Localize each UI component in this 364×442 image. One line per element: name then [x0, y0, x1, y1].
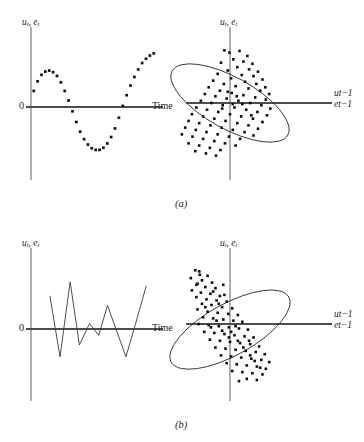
scatter-point — [216, 73, 219, 76]
scatter-point — [254, 351, 257, 354]
scatter-point — [236, 122, 239, 125]
scatter-point — [187, 142, 190, 145]
scatter-point — [242, 346, 245, 349]
scatter-point — [216, 133, 219, 136]
scatter-point — [187, 120, 190, 123]
residual-dot — [75, 121, 78, 124]
scatter-point — [253, 360, 256, 363]
scatter-point — [223, 294, 226, 297]
scatter-point — [260, 359, 263, 362]
scatter-point — [212, 79, 215, 82]
x-axis-time-label: Time — [152, 100, 173, 111]
scatter-point — [233, 334, 236, 337]
y-axis-label: ut, et — [220, 239, 237, 249]
residual-dot — [133, 76, 136, 79]
scatter-point — [195, 296, 198, 299]
scatter-point — [201, 303, 204, 306]
scatter-point — [261, 78, 264, 81]
scatter-point — [241, 371, 244, 374]
scatter-point — [257, 127, 260, 130]
scatter-point — [204, 93, 207, 96]
scatter-point — [268, 361, 271, 364]
scatter-point — [217, 111, 220, 114]
residual-dot — [141, 62, 144, 65]
scatter-point — [245, 108, 248, 111]
scatter-point — [251, 372, 254, 375]
residual-dot — [90, 147, 93, 150]
scatter-point — [207, 86, 210, 89]
scatter-point — [248, 68, 251, 71]
scatter-point — [231, 370, 234, 373]
scatter-point — [218, 325, 221, 328]
scatter-point — [246, 55, 249, 58]
scatter-point — [247, 87, 250, 90]
scatter-point — [191, 289, 194, 292]
scatter-point — [224, 347, 227, 350]
y-axis-label: ut, et — [220, 18, 237, 28]
residual-dot — [110, 136, 113, 139]
scatter-point — [229, 113, 232, 116]
scatter-point — [222, 284, 225, 287]
scatter-point — [232, 103, 235, 106]
scatter-point — [252, 117, 255, 120]
scatter-point — [219, 340, 222, 343]
scatter-point — [249, 354, 252, 357]
scatter-point — [238, 380, 241, 383]
scatter-point — [213, 117, 216, 120]
scatter-point — [246, 364, 249, 367]
scatter-point — [261, 373, 264, 376]
scatter-point — [234, 85, 237, 88]
scatter-point — [234, 144, 237, 147]
residual-dot — [48, 69, 51, 72]
residual-dot — [145, 57, 148, 60]
residual-dot — [60, 81, 63, 84]
scatter-point — [240, 74, 243, 77]
scatter-point — [246, 378, 249, 381]
scatter-point — [214, 346, 217, 349]
scatter-point — [225, 362, 228, 365]
scatter-point — [194, 269, 197, 272]
residual-dot — [56, 75, 59, 78]
scatter-point — [252, 134, 255, 137]
scatter-point — [196, 308, 199, 311]
scatter-point — [205, 298, 208, 301]
scatter-point — [221, 329, 224, 332]
scatter-point — [228, 135, 231, 138]
scatter-point — [191, 135, 194, 138]
scatter-point — [237, 340, 240, 343]
scatter-point — [241, 103, 244, 106]
scatter-point — [215, 319, 218, 322]
scatter-point — [203, 331, 206, 334]
scatter-point — [261, 121, 264, 124]
scatter-point — [195, 129, 198, 132]
scatter-point — [228, 326, 231, 329]
scatter-point — [237, 99, 240, 102]
scatter-point — [228, 336, 231, 339]
scatter-point — [224, 142, 227, 145]
scatter-point — [231, 307, 234, 310]
residual-dot — [52, 71, 55, 74]
residual-dot — [87, 143, 90, 146]
figure-root: ut, et 0 Time ut, et ut−1 et−1 (a) — [0, 0, 364, 442]
scatter-point — [226, 69, 229, 72]
scatter-point — [230, 92, 233, 95]
x-axis-lag-label-e: et−1 — [334, 320, 353, 331]
residual-dot — [36, 80, 39, 83]
scatter-point — [206, 108, 209, 111]
scatter-point — [235, 363, 238, 366]
residual-dot — [149, 54, 152, 57]
scatter-point — [238, 327, 241, 330]
scatter-point — [252, 75, 255, 78]
scatter-point — [247, 328, 250, 331]
scatter-point — [259, 89, 262, 92]
residual-dot — [137, 68, 140, 71]
scatter-point — [268, 93, 271, 96]
scatter-point — [249, 102, 252, 105]
scatter-point — [214, 287, 217, 290]
scatter-point — [221, 306, 224, 309]
scatter-point — [221, 107, 224, 110]
scatter-point — [209, 147, 212, 150]
residual-dot — [83, 138, 86, 141]
panel-a-lag-scatter: ut, et ut−1 et−1 — [182, 0, 364, 200]
scatter-point — [198, 270, 201, 273]
